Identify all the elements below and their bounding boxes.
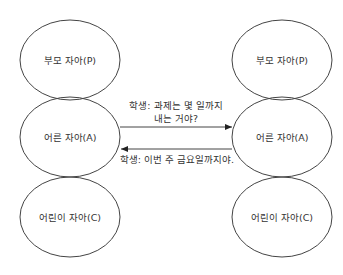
forward-message: 학생: 과제는 몇 일까지 내는 거야?	[120, 99, 232, 125]
reply-message: 학생: 이번 주 금요일까지야.	[112, 153, 242, 166]
right-parent-label: 부모 자아(P)	[256, 53, 308, 67]
left-adult-label: 어른 자아(A)	[44, 130, 97, 144]
left-child-label: 어린이 자아(C)	[39, 210, 101, 224]
forward-message-line2: 내는 거야?	[120, 112, 232, 125]
left-parent-label: 부모 자아(P)	[44, 53, 96, 67]
forward-message-line1: 학생: 과제는 몇 일까지	[120, 99, 232, 112]
reply-message-text: 학생: 이번 주 금요일까지야.	[112, 153, 242, 166]
right-child-label: 어린이 자아(C)	[251, 210, 313, 224]
right-adult-label: 어른 자아(A)	[256, 130, 309, 144]
